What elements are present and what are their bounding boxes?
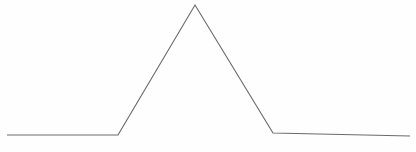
chart-figure [0,0,416,152]
chart-background [0,0,416,152]
chart-plot-area [0,0,416,152]
